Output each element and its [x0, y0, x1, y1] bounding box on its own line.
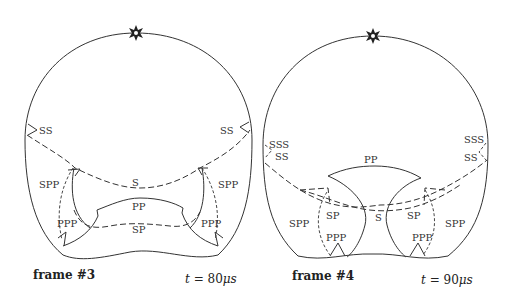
- wavefront-diagram: SS SS S PP SP SPP SPP PPP PPP frame #3 t…: [0, 0, 511, 301]
- frame-3-time: t = 80μs: [185, 272, 237, 286]
- label-pp: PP: [132, 201, 146, 212]
- label-ss-left: SS: [275, 151, 289, 162]
- label-ppp-right: PPP: [412, 232, 432, 243]
- label-sp-right: SP: [407, 210, 421, 221]
- frame-3-ppp-right-mark: [215, 232, 223, 246]
- label-s: S: [375, 212, 382, 223]
- frame-3: SS SS S PP SP SPP SPP PPP PPP frame #3 t…: [25, 25, 252, 286]
- label-spp-right: SPP: [445, 218, 466, 229]
- label-spp-right: SPP: [218, 179, 239, 190]
- frame-3-spp-right-arc: [202, 168, 217, 240]
- frame-4-time: t = 90μs: [421, 273, 473, 287]
- label-ss-left: SS: [39, 125, 53, 136]
- frame-3-spp-left-arc: [59, 168, 73, 240]
- frame-3-ss-left-mark: [28, 124, 37, 135]
- label-spp-left: SPP: [289, 218, 310, 229]
- label-spp-left: SPP: [39, 179, 60, 190]
- frame-3-ppp-left-mark: [58, 232, 66, 246]
- label-sss-left: SSS: [269, 139, 289, 150]
- frame-4: SSS SS SSS SS PP SP S SP SPP SPP PPP PPP…: [263, 28, 488, 287]
- label-s: S: [132, 177, 139, 188]
- label-sp-left: SP: [326, 210, 340, 221]
- frame-3-ss-right-mark: [240, 122, 249, 133]
- label-ppp-left: PPP: [326, 232, 346, 243]
- label-ppp-right: PPP: [201, 218, 221, 229]
- label-sss-right: SSS: [464, 134, 484, 145]
- frame-4-ppp-left-mark: [330, 243, 345, 256]
- frame-4-s-wavefront: [265, 160, 487, 207]
- frame-4-sss-right-mark: [479, 143, 486, 160]
- label-ss-right: SS: [220, 125, 234, 136]
- frame-4-spp-left-arc: [318, 192, 330, 255]
- label-pp: PP: [364, 154, 378, 165]
- frame-4-ppp-right-mark: [410, 243, 425, 256]
- label-sp: SP: [132, 224, 146, 235]
- frame-4-caption: frame #4: [292, 269, 354, 283]
- frame-3-caption: frame #3: [33, 268, 95, 282]
- label-ss-right: SS: [464, 152, 478, 163]
- label-ppp-left: PPP: [57, 218, 77, 229]
- frame-4-pp-wavefront: [328, 166, 421, 178]
